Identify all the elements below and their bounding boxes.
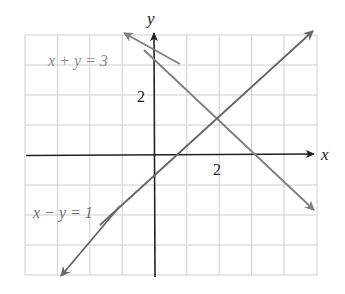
y-axis-label: y bbox=[145, 9, 155, 28]
graph: y x 2 2 x + y = 3 x − y = 1 bbox=[0, 0, 345, 294]
x-axis-label: x bbox=[320, 145, 329, 164]
y-axis bbox=[154, 33, 155, 277]
label-x-plus-y-eq-3: x + y = 3 bbox=[47, 52, 108, 70]
line-x-minus-y-eq-1 bbox=[100, 31, 313, 225]
line-x-plus-y-eq-3-left-arrow bbox=[124, 33, 180, 64]
x-tick-2: 2 bbox=[213, 161, 221, 178]
x-axis bbox=[26, 154, 314, 156]
label-x-minus-y-eq-1: x − y = 1 bbox=[32, 204, 93, 222]
y-tick-2: 2 bbox=[137, 88, 145, 105]
line-x-plus-y-eq-3 bbox=[144, 50, 314, 210]
